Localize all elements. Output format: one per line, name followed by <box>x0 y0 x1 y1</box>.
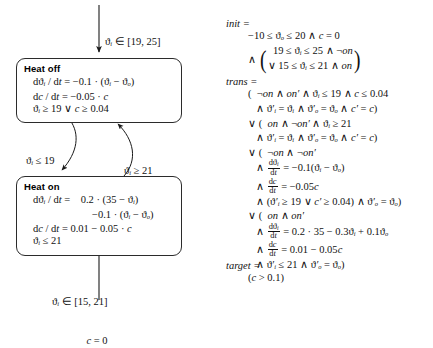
spec-init-line-1: −10 ≤ ϑo ≤ 20 ∧ c = 0 <box>226 30 361 45</box>
conjunction-symbol: ∧ <box>248 54 256 66</box>
spec-trans-line: ∨ ( on ∧ ¬on′ ∧ ϑi ≥ 21 <box>226 118 401 133</box>
state-invariant-line: dϑi / dt = 0.2 · (35 − ϑi) <box>24 194 174 209</box>
state-invariant-line: −0.1 · (ϑi − ϑo) <box>24 209 174 224</box>
spec-block-init: init = −10 ≤ ϑo ≤ 20 ∧ c = 0 ∧ ( 19 ≤ ϑi… <box>226 18 361 74</box>
spec-init-disjunct-1: 19 ≤ ϑi ≤ 25 ∧ ¬on <box>268 45 353 60</box>
spec-trans-line: ∧ dcdt = 0.01 − 0.05c <box>226 241 401 259</box>
spec-block-trans: trans = ( ¬on ∧ on′ ∧ ϑi ≤ 19 ∧ c ≤ 0.04… <box>226 76 401 274</box>
spec-trans-line: ∧ ϑ′i = ϑi ∧ ϑ′o = ϑo ∧ c′ = c) <box>226 103 401 118</box>
spec-trans-line: ∧ ϑ′i = ϑi ∧ ϑ′o = ϑo ∧ c′ = c) <box>226 132 401 147</box>
spec-header-target: target = <box>226 260 284 272</box>
spec-target-line: (c > 0.1) <box>226 272 284 284</box>
derivative-fraction: dϑidt <box>268 159 280 177</box>
spec-trans-line: ∨ ( on ∧ on′ <box>226 210 401 222</box>
edge-label-line: c = 0 <box>52 335 108 347</box>
edge-label-line: ϑi ≤ 19 <box>26 155 60 170</box>
state-invariant-line: ϑi ≥ 19 ∨ c ≥ 0.04 <box>24 103 174 118</box>
state-invariant-line: dϑi / dt = −0.1 · (ϑi − ϑo) <box>24 76 174 91</box>
state-invariant-line: dc / dt = 0.01 − 0.05 · c <box>24 223 174 235</box>
right-paren: ) <box>354 50 361 70</box>
spec-init-disjunction: ∧ ( 19 ≤ ϑi ≤ 25 ∧ ¬on ∨ 15 ≤ ϑi ≤ 21 ∧ … <box>226 45 361 74</box>
state-node-heat-on[interactable]: Heat on dϑi / dt = 0.2 · (35 − ϑi) −0.1 … <box>16 176 182 256</box>
state-title-heat-on: Heat on <box>24 181 174 192</box>
edge-label-line: ϑi ∈ [19, 25] <box>105 36 161 51</box>
spec-trans-line: ( ¬on ∧ on′ ∧ ϑi ≤ 19 ∧ c ≤ 0.04 <box>226 88 401 103</box>
hybrid-automaton-diagram: ϑi ∈ [19, 25] c = 0 Heat off dϑi / dt = … <box>0 0 216 307</box>
arrow-heat-off-to-heat-on <box>62 120 76 170</box>
spec-header-trans: trans = <box>226 76 401 88</box>
state-node-heat-off[interactable]: Heat off dϑi / dt = −0.1 · (ϑi − ϑo) dc … <box>16 58 182 123</box>
spec-trans-line: ∨ ( ¬on ∧ ¬on′ <box>226 147 401 159</box>
derivative-fraction: dcdt <box>268 241 278 259</box>
state-invariant-line: ϑi ≤ 21 <box>24 235 174 250</box>
spec-init-paren-rows: 19 ≤ ϑi ≤ 25 ∧ ¬on ∨ 15 ≤ ϑi ≤ 21 ∧ on <box>268 45 353 74</box>
state-invariant-line: dc / dt = −0.05 · c <box>24 91 174 103</box>
spec-trans-line: ∧ dcdt = −0.05c <box>226 178 401 196</box>
spec-trans-line: ∧ dϑidt = −0.1(ϑi − ϑo) <box>226 159 401 177</box>
spec-block-target: target = (c > 0.1) <box>226 260 284 285</box>
left-paren: ( <box>260 50 267 70</box>
derivative-fraction: dϑidt <box>268 223 280 241</box>
spec-trans-line: ∧ (ϑ′i ≥ 19 ∨ c′ ≥ 0.04) ∧ ϑ′o = ϑo) <box>226 196 401 211</box>
spec-header-init: init = <box>226 18 361 30</box>
spec-trans-line: ∧ dϑidt = 0.2 · 35 − 0.3ϑi + 0.1ϑo <box>226 223 401 241</box>
derivative-fraction: dcdt <box>268 178 278 196</box>
edge-label-line: ϑi ∈ [15, 21] <box>52 296 108 311</box>
edge-label-init-to-heat-on: ϑi ∈ [15, 21] c = 0 <box>52 272 108 348</box>
spec-init-disjunct-2: ∨ 15 ≤ ϑi ≤ 21 ∧ on <box>268 60 353 75</box>
symbolic-specification: init = −10 ≤ ϑo ≤ 20 ∧ c = 0 ∧ ( 19 ≤ ϑi… <box>226 0 433 307</box>
state-title-heat-off: Heat off <box>24 63 174 74</box>
